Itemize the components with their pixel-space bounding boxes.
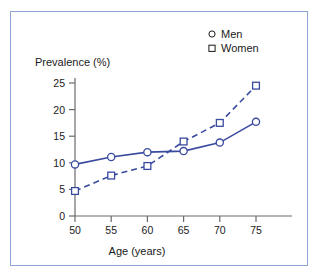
y-tick-label: 10: [53, 157, 65, 169]
circle-marker-icon: [252, 118, 259, 125]
x-tick-label: 65: [178, 224, 190, 236]
square-marker-icon: [216, 120, 223, 127]
circle-marker-icon: [216, 139, 223, 146]
square-marker-icon: [72, 188, 79, 195]
series-line-men: [75, 122, 256, 165]
y-axis-title: Prevalence (%): [35, 56, 110, 68]
circle-marker-icon: [180, 148, 187, 155]
y-axis-ticks: 0 5 10 15 20 25: [53, 77, 75, 222]
x-axis-title: Age (years): [109, 245, 166, 257]
circle-marker-icon: [144, 149, 151, 156]
x-tick-label: 70: [214, 224, 226, 236]
y-tick-label: 20: [53, 104, 65, 116]
y-tick-label: 5: [59, 183, 65, 195]
circle-marker-icon: [209, 31, 215, 37]
x-tick-label: 55: [105, 224, 117, 236]
circle-marker-icon: [108, 153, 115, 160]
x-tick-label: 75: [250, 224, 262, 236]
y-tick-label: 15: [53, 130, 65, 142]
series-men: [71, 118, 259, 168]
series-women: [72, 82, 260, 194]
circle-marker-icon: [71, 161, 78, 168]
plot-area: Men Women Prevalence (%) Age (years) 0 5: [11, 12, 307, 265]
x-axis-ticks: 50 55 60 65 70 75: [69, 216, 262, 236]
legend-label-women: Women: [221, 42, 259, 54]
chart-svg: Men Women Prevalence (%) Age (years) 0 5: [11, 12, 306, 264]
square-marker-icon: [253, 82, 260, 89]
series-line-women: [75, 86, 256, 191]
legend-entry-women: Women: [209, 42, 259, 54]
data-series-layer: [71, 82, 259, 194]
square-marker-icon: [144, 163, 151, 170]
x-tick-label: 50: [69, 224, 81, 236]
square-marker-icon: [108, 172, 115, 179]
x-tick-label: 60: [142, 224, 154, 236]
chart-legend: Men Women: [209, 28, 259, 54]
figure-frame: Men Women Prevalence (%) Age (years) 0 5: [10, 11, 308, 266]
y-tick-label: 0: [59, 210, 65, 222]
y-tick-label: 25: [53, 77, 65, 89]
square-marker-icon: [180, 138, 187, 145]
legend-entry-men: Men: [209, 28, 243, 40]
legend-label-men: Men: [221, 28, 242, 40]
square-marker-icon: [209, 45, 215, 51]
